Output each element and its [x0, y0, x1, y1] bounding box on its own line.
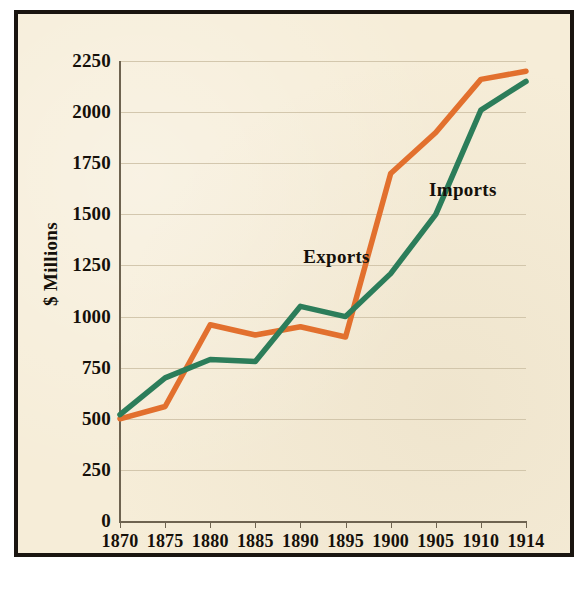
y-tick-label: 0 — [101, 510, 111, 532]
x-tick-label: 1895 — [327, 531, 364, 552]
x-tick — [526, 521, 527, 528]
y-tick-label: 500 — [82, 408, 111, 430]
y-tick-label: 1750 — [72, 152, 111, 174]
x-tick-label: 1890 — [282, 531, 319, 552]
x-tick-label: 1875 — [147, 531, 184, 552]
y-tick-label: 2250 — [72, 50, 111, 72]
x-tick-label: 1880 — [192, 531, 229, 552]
x-tick-label: 1900 — [372, 531, 409, 552]
x-tick-label: 1870 — [102, 531, 139, 552]
x-axis-line — [119, 521, 526, 523]
x-tick-label: 1914 — [508, 531, 545, 552]
x-tick-label: 1905 — [417, 531, 454, 552]
series-label-imports: Imports — [429, 179, 497, 201]
series-line-exports — [120, 71, 526, 419]
y-tick-label: 1250 — [72, 254, 111, 276]
x-tick-label: 1910 — [462, 531, 499, 552]
y-tick-label: 250 — [82, 459, 111, 481]
y-tick-label: 2000 — [72, 101, 111, 123]
plot-area: 0250500750100012501500175020002250 18701… — [120, 61, 526, 521]
x-tick-label: 1885 — [237, 531, 274, 552]
y-tick-label: 1000 — [72, 306, 111, 328]
chart-figure: $ Millions 02505007501000125015001750200… — [14, 10, 574, 557]
y-tick-label: 750 — [82, 357, 111, 379]
y-axis-title: $ Millions — [40, 222, 62, 306]
series-label-exports: Exports — [303, 246, 370, 268]
series-lines — [120, 61, 526, 521]
y-tick-label: 1500 — [72, 203, 111, 225]
